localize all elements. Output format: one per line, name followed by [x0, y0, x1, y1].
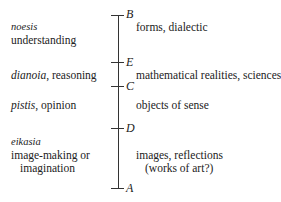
tick-d	[111, 128, 124, 129]
pistis-desc: , opinion	[35, 99, 76, 111]
noesis-term: noesis	[11, 21, 37, 33]
noesis-desc: understanding	[11, 34, 76, 46]
point-label-d: D	[126, 122, 135, 134]
divided-line	[118, 15, 119, 189]
point-label-e: E	[126, 56, 133, 68]
dianoia-desc: , reasoning	[46, 69, 96, 81]
pistis-row: pistis, opinion	[11, 99, 76, 111]
tick-a	[111, 188, 124, 189]
dianoia-row: dianoia, reasoning	[11, 69, 97, 81]
dianoia-term: dianoia	[11, 69, 46, 81]
sense-desc: objects of sense	[136, 99, 209, 111]
images-desc-2: (works of art?)	[145, 162, 213, 174]
eikasia-term: eikasia	[11, 136, 41, 148]
point-label-a: A	[126, 182, 133, 194]
eikasia-desc-2: imagination	[20, 162, 75, 174]
pistis-term: pistis	[11, 99, 35, 111]
math-desc: mathematical realities, sciences	[136, 69, 281, 81]
forms-desc: forms, dialectic	[136, 21, 208, 33]
eikasia-desc-1: image-making or	[11, 149, 90, 161]
tick-e	[111, 62, 124, 63]
images-desc-1: images, reflections	[136, 149, 223, 161]
point-label-c: C	[126, 80, 134, 92]
tick-c	[111, 86, 124, 87]
tick-b	[111, 15, 124, 16]
point-label-b: B	[126, 8, 133, 20]
